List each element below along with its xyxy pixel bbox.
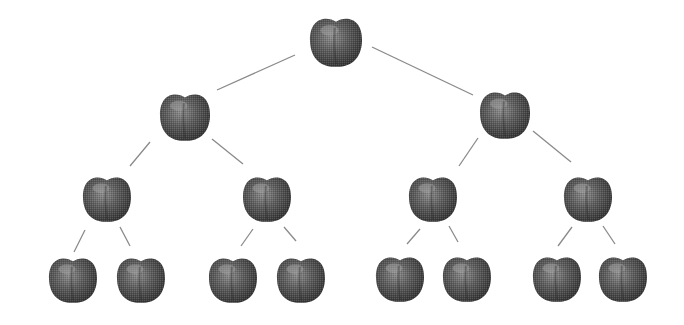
apple-icon [443, 257, 491, 301]
tree-edge [407, 229, 420, 244]
apple-icon [243, 177, 291, 221]
tree-edges [74, 47, 615, 252]
apple-binary-tree-diagram [0, 0, 684, 325]
apple-icon [533, 257, 581, 301]
apple-icon [117, 258, 165, 302]
apple-icon [564, 177, 612, 221]
tree-edge [284, 227, 296, 241]
tree-edge [533, 131, 571, 162]
tree-edge [212, 139, 243, 164]
tree-nodes [49, 19, 647, 303]
tree-edge [459, 138, 478, 166]
apple-icon [599, 257, 647, 301]
apple-icon [83, 177, 131, 221]
apple-icon [310, 19, 362, 67]
tree-canvas [0, 0, 684, 325]
apple-icon [376, 257, 424, 301]
tree-edge [372, 47, 473, 95]
apple-icon [209, 258, 257, 302]
apple-icon [409, 177, 457, 221]
tree-edge [449, 226, 458, 242]
tree-edge [217, 55, 295, 90]
apple-icon [480, 93, 530, 139]
tree-edge [120, 227, 130, 246]
tree-edge [558, 227, 572, 246]
tree-edge [130, 142, 150, 166]
apple-icon [277, 258, 325, 302]
tree-edge [241, 229, 253, 246]
apple-icon [160, 95, 210, 141]
apple-icon [49, 258, 97, 302]
tree-edge [603, 226, 615, 244]
tree-edge [74, 230, 85, 252]
